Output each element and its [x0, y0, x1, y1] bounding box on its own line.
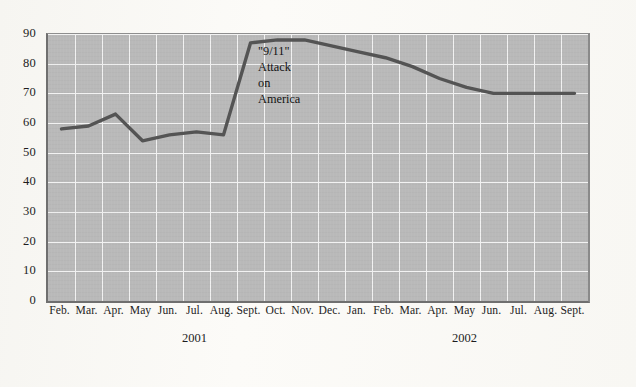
x-tick-label: Jan.	[347, 305, 366, 317]
x-tick-label: Mar.	[400, 305, 422, 317]
x-tick-label: Sept.	[236, 305, 260, 317]
x-tick-label: Jun.	[158, 305, 177, 317]
line-chart-figure: 0102030405060708090 "9/11" Attack on Ame…	[0, 0, 636, 387]
x-tick-label: Feb.	[49, 305, 70, 317]
x-axis-year-groups: 20012002	[46, 332, 586, 352]
x-tick-label: Jul.	[510, 305, 527, 317]
y-tick-label: 60	[23, 116, 36, 129]
x-tick-label: Jun.	[482, 305, 501, 317]
x-axis-year-label: 2002	[452, 332, 477, 345]
series-line	[62, 40, 575, 141]
y-tick-label: 50	[23, 145, 36, 158]
annotation-line-4: America	[258, 92, 300, 108]
annotation-line-1: "9/11"	[258, 44, 300, 60]
x-tick-label: Aug.	[534, 305, 557, 317]
chart-page: 0102030405060708090 "9/11" Attack on Ame…	[0, 0, 636, 387]
y-tick-label: 10	[23, 264, 36, 277]
series-layer	[48, 34, 588, 301]
y-tick-label: 0	[30, 294, 36, 307]
x-axis: Feb.Mar.Apr.MayJun.Jul.Aug.Sept.Oct.Nov.…	[46, 305, 586, 327]
x-tick-label: Oct.	[265, 305, 285, 317]
x-tick-label: Nov.	[291, 305, 314, 317]
x-tick-label: Jul.	[186, 305, 203, 317]
x-tick-label: May	[454, 305, 476, 317]
x-tick-label: Apr.	[103, 305, 124, 317]
y-tick-label: 80	[23, 56, 36, 69]
nine-eleven-annotation: "9/11" Attack on America	[258, 44, 300, 108]
x-axis-year-label: 2001	[182, 332, 207, 345]
annotation-line-2: Attack	[258, 60, 300, 76]
x-tick-label: Apr.	[427, 305, 448, 317]
x-tick-label: Dec.	[319, 305, 341, 317]
x-tick-label: Aug.	[210, 305, 233, 317]
y-tick-label: 90	[23, 27, 36, 40]
y-axis: 0102030405060708090	[0, 0, 44, 387]
y-tick-label: 20	[23, 234, 36, 247]
x-tick-label: Sept.	[560, 305, 584, 317]
x-tick-label: Feb.	[373, 305, 394, 317]
annotation-line-3: on	[258, 76, 300, 92]
y-tick-label: 30	[23, 205, 36, 218]
y-tick-label: 40	[23, 175, 36, 188]
plot-area	[46, 33, 590, 303]
x-tick-label: May	[130, 305, 152, 317]
x-tick-label: Mar.	[76, 305, 98, 317]
y-tick-label: 70	[23, 86, 36, 99]
